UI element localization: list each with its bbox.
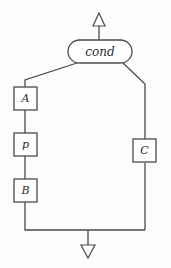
entry-arrow-icon	[93, 13, 105, 26]
node-cond[interactable]: cond	[68, 40, 132, 63]
edge-cond-to-left-branch	[25, 62, 80, 87]
flowchart-svg: cond A p B C	[0, 0, 171, 268]
node-b[interactable]: B	[14, 179, 37, 202]
node-c[interactable]: C	[133, 139, 156, 162]
node-p[interactable]: p	[14, 133, 37, 156]
cond-label: cond	[85, 45, 115, 59]
exit-arrow-icon	[81, 245, 95, 258]
b-label: B	[20, 184, 29, 197]
c-label: C	[140, 144, 149, 157]
node-a[interactable]: A	[14, 87, 37, 110]
p-label: p	[22, 138, 29, 151]
a-label: A	[21, 92, 30, 105]
flowchart-canvas: cond A p B C	[0, 0, 171, 268]
edge-b-to-join	[25, 202, 145, 230]
edge-cond-to-right-branch	[122, 62, 145, 139]
